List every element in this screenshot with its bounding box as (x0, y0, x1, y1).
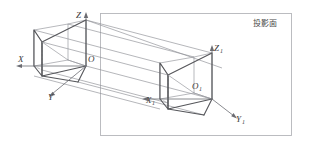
diagram-canvas: Z X Y O (0, 0, 313, 152)
image-y-axis-label: Y 1 (236, 114, 245, 125)
object-origin-label: O (88, 54, 95, 64)
projection-ray (86, 20, 212, 53)
object-cube-left-face (34, 30, 42, 76)
object-x-axis-arrowhead (16, 64, 22, 68)
projection-ray (42, 42, 168, 75)
projection-ray (68, 24, 194, 57)
image-cube-depth-edge (194, 53, 212, 57)
image-z-axis-label-subscript: 1 (220, 48, 223, 54)
object-cube-bottom-edge (78, 66, 86, 82)
image-x-axis-label: X 1 (145, 95, 155, 106)
object-z-axis-label: Z (76, 10, 82, 20)
image-cube-front-face (168, 53, 212, 109)
image-y-axis (212, 99, 234, 116)
object-x-axis-label: X (17, 54, 24, 64)
projection-plane-label: 投影面 (253, 18, 277, 28)
image-origin-label: O 1 (192, 81, 202, 92)
object-cube-back-face (34, 24, 68, 66)
image-x-axis-label-subscript: 1 (152, 100, 155, 106)
projection-diagram-figure: Z X Y O (0, 0, 313, 152)
image-y-axis-label-subscript: 1 (242, 119, 245, 125)
image-origin-label-text: O (192, 81, 199, 91)
projection-ray (34, 30, 160, 63)
image-z-axis-label: Z 1 (214, 43, 223, 54)
image-cube (160, 53, 212, 115)
object-cube-top-edge (42, 42, 68, 60)
image-cube-bottom-edge (204, 99, 212, 115)
image-origin-label-subscript: 1 (199, 86, 202, 92)
image-x-axis-label-text: X (145, 95, 152, 105)
image-cube-top-edge (168, 75, 194, 93)
projection-plane-rectangle (101, 14, 292, 136)
image-cube-bottom-edge (168, 109, 204, 115)
object-cube-top-edge (68, 60, 86, 66)
object-z-axis-arrowhead (84, 12, 88, 18)
image-cube-top-edge (194, 93, 212, 99)
projection-ray (86, 20, 222, 68)
object-cube-depth-edge (68, 20, 86, 24)
